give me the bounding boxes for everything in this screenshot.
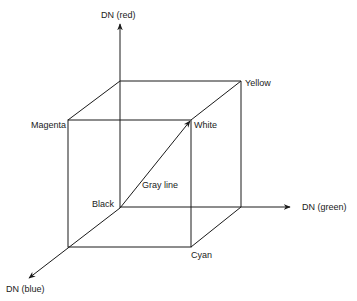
vertex-white-label: White [194,121,217,130]
cube-edge [68,81,120,120]
blue-axis [29,208,120,278]
gray-line-arrow [120,121,190,208]
red-axis-label: DN (red) [101,11,136,20]
vertex-black-label: Black [92,200,114,209]
vertex-cyan-label: Cyan [191,251,212,260]
cube-edge [191,207,241,247]
gray-line-label: Gray line [142,181,178,190]
vertex-yellow-label: Yellow [245,79,271,88]
green-axis-label: DN (green) [302,203,347,212]
color-cube-diagram [0,0,357,301]
cube-edge [191,81,241,120]
vertex-magenta-label: Magenta [31,121,66,130]
blue-axis-label: DN (blue) [6,285,45,294]
